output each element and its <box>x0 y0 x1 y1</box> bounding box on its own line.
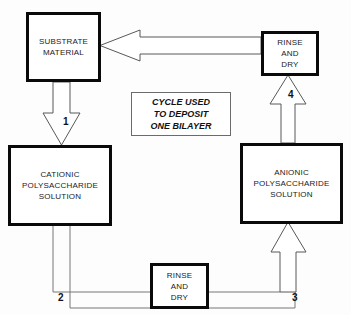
node-rinse-top-line1: RINSE <box>277 37 302 48</box>
arrow-step-4 <box>270 75 306 143</box>
node-substrate-line2: MATERIAL <box>43 47 84 58</box>
step-number-3: 3 <box>292 293 298 303</box>
step-number-2: 2 <box>58 293 64 303</box>
node-cationic-polysaccharide-solution[interactable]: CATIONIC POLYSACCHARIDE SOLUTION <box>8 145 112 226</box>
diagram-canvas: SUBSTRATE MATERIAL CATIONIC POLYSACCHARI… <box>0 0 351 315</box>
node-rinse-bottom-line1: RINSE <box>167 270 192 281</box>
node-rinse-and-dry-top[interactable]: RINSE AND DRY <box>261 31 319 76</box>
node-rinse-bottom-line3: DRY <box>171 292 188 303</box>
node-substrate-material[interactable]: SUBSTRATE MATERIAL <box>26 12 101 82</box>
caption-line2: TO DEPOSIT <box>154 108 208 120</box>
connector-step-2-left-rail <box>53 226 150 292</box>
arrow-step-1 <box>43 82 80 145</box>
step-number-1: 1 <box>63 117 69 127</box>
node-rinse-top-line3: DRY <box>281 59 298 70</box>
caption-line3: ONE BILAYER <box>151 120 212 132</box>
node-rinse-and-dry-bottom[interactable]: RINSE AND DRY <box>150 263 209 309</box>
arrow-step-3 <box>271 222 306 292</box>
node-cationic-line3: SOLUTION <box>39 191 82 202</box>
node-rinse-bottom-line2: AND <box>171 281 189 292</box>
node-anionic-line2: POLYSACCHARIDE <box>253 178 329 189</box>
caption-cycle-used-to-deposit-one-bilayer: CYCLE USED TO DEPOSIT ONE BILAYER <box>131 92 231 136</box>
node-rinse-top-line2: AND <box>281 48 299 59</box>
step-number-4: 4 <box>288 90 294 100</box>
node-cationic-line2: POLYSACCHARIDE <box>22 180 98 191</box>
node-anionic-line1: ANIONIC <box>274 167 309 178</box>
caption-line1: CYCLE USED <box>152 96 210 108</box>
node-anionic-line3: SOLUTION <box>270 189 313 200</box>
node-cationic-line1: CATIONIC <box>40 169 79 180</box>
arrow-return-to-substrate <box>100 30 261 61</box>
node-anionic-polysaccharide-solution[interactable]: ANIONIC POLYSACCHARIDE SOLUTION <box>240 143 343 224</box>
connector-step-2-right-rail <box>70 226 150 308</box>
node-substrate-line1: SUBSTRATE <box>39 36 88 47</box>
